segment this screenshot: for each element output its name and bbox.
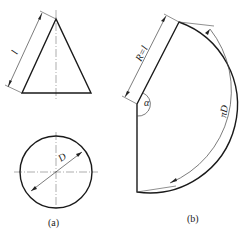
cone-development-diagram: l D (a) R=l α πD (b) [0, 0, 245, 232]
caption-b: (b) [187, 213, 199, 225]
caption-a: (a) [48, 217, 59, 229]
diameter-label: D [55, 150, 69, 164]
slant-length-label: l [9, 48, 20, 55]
sector-development: R=l α πD [122, 14, 237, 193]
arc-length-label: πD [217, 104, 230, 119]
cone-base-view: D [14, 132, 98, 208]
angle-label: α [144, 97, 150, 108]
cone-front-view: l [5, 10, 91, 100]
radius-label: R=l [133, 44, 150, 64]
